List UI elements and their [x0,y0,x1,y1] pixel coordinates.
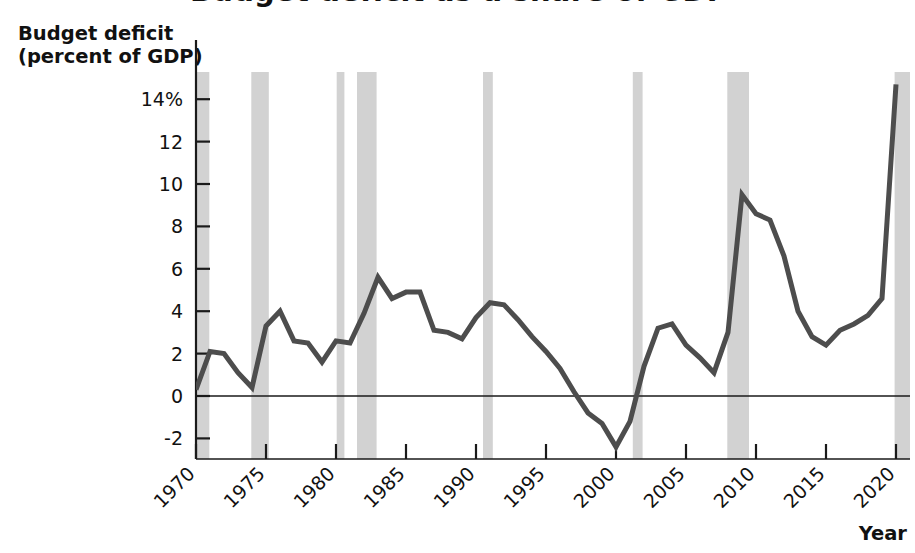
y-tick-label: 6 [171,258,183,280]
y-tick-label: 4 [171,300,183,322]
recession-band [357,72,377,459]
y-tick-label: 12 [159,131,183,153]
x-tick-label: 2010 [709,462,759,512]
chart-plot-area: -202468101214% 1970197519801985199019952… [0,0,915,553]
y-tick-label: -2 [164,427,183,449]
data-line-budget-deficit [196,84,896,447]
recession-band [483,72,493,459]
y-tick-label: 2 [171,343,183,365]
recession-band [727,72,749,459]
recession-band [251,72,268,459]
x-tick-label: 2005 [639,462,689,512]
recession-band [195,72,209,459]
y-tick-label: 0 [171,385,183,407]
chart-figure: Budget deficit as a share of GDP Budget … [0,0,915,553]
recession-band [337,72,345,459]
y-tick-label: 8 [171,215,183,237]
data-line-group [196,84,896,447]
x-tick-label: 1985 [359,462,409,512]
x-tick-labels-group: 1970197519801985199019952000200520102015… [149,462,899,512]
y-tick-label: 14% [141,88,183,110]
x-tick-label: 2020 [849,462,899,512]
recession-bands-group [195,72,910,459]
y-tick-labels-group: -202468101214% [141,88,183,449]
x-tick-label: 1970 [149,462,199,512]
y-tick-label: 10 [159,173,183,195]
x-tick-label: 1990 [429,462,479,512]
x-tick-label: 1975 [219,462,269,512]
x-tick-label: 2015 [779,462,829,512]
x-tick-label: 1980 [289,462,339,512]
x-tick-label: 1995 [499,462,549,512]
x-tick-label: 2000 [569,462,619,512]
recession-band [895,72,910,459]
